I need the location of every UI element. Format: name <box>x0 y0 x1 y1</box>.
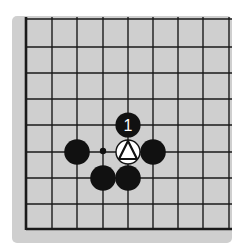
move-number-label: 1 <box>124 117 133 134</box>
black-stone-move-1: 1 <box>115 112 140 137</box>
white-stone-triangle-marked <box>116 140 140 164</box>
black-stone <box>64 139 90 165</box>
black-stone <box>140 139 166 165</box>
small-dot-marker <box>100 148 106 154</box>
black-stone <box>115 165 141 191</box>
black-stone <box>90 165 116 191</box>
go-board-grid: 1 <box>0 0 247 250</box>
